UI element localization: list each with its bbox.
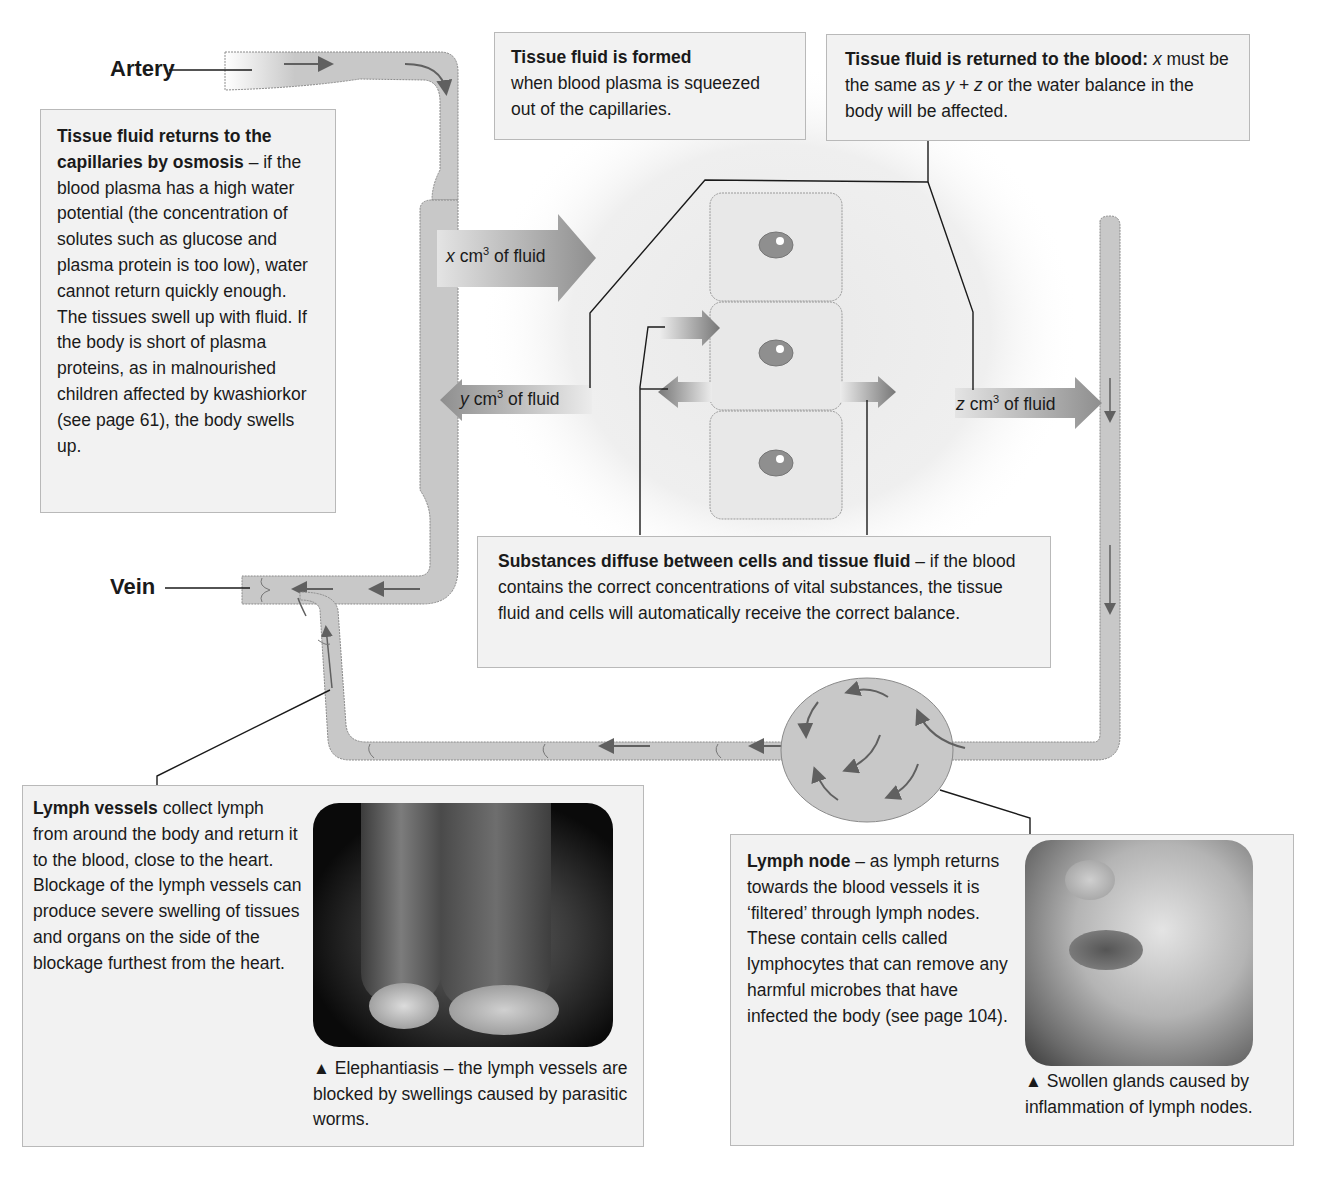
lymph-node-title: Lymph node <box>747 851 850 871</box>
lymph-node-box: Lymph node – as lymph returns towards th… <box>730 834 1294 1146</box>
diffuse-box: Substances diffuse between cells and tis… <box>477 536 1051 668</box>
rest: of fluid <box>503 389 559 409</box>
formed-box: Tissue fluid is formed when blood plasma… <box>494 32 806 140</box>
returned-title: Tissue fluid is returned to the blood: <box>845 49 1148 69</box>
unit: cm <box>460 246 483 266</box>
returned-box: Tissue fluid is returned to the blood: x… <box>826 34 1250 141</box>
y-plus-z: y + z <box>945 75 982 95</box>
z-fluid-label: z cm3 of fluid <box>956 393 1056 415</box>
swollen-glands-caption-text: Swollen glands caused by inflammation of… <box>1025 1071 1253 1117</box>
y-var: y <box>460 389 469 409</box>
elephantiasis-caption-text: Elephantiasis – the lymph vessels are bl… <box>313 1058 628 1129</box>
nucleus-icon <box>759 450 793 476</box>
unit: cm <box>970 394 993 414</box>
swollen-glands-photo <box>1025 840 1253 1066</box>
lymph-vessels-text: Lymph vessels collect lymph from around … <box>33 796 303 977</box>
diffuse-title: Substances diffuse between cells and tis… <box>498 551 910 571</box>
lymph-vessels-body: collect lymph from around the body and r… <box>33 798 301 973</box>
lymph-vessels-title: Lymph vessels <box>33 798 158 818</box>
z-var: z <box>956 394 965 414</box>
elephantiasis-caption: ▲ Elephantiasis – the lymph vessels are … <box>313 1056 643 1133</box>
leg-right <box>441 803 551 1008</box>
x-fluid-label: x cm3 of fluid <box>446 245 546 267</box>
osmosis-title: Tissue fluid returns to the capillaries … <box>57 126 272 172</box>
artery-label: Artery <box>110 56 175 82</box>
heel-right <box>449 985 559 1035</box>
lymph-node-text: Lymph node – as lymph returns towards th… <box>747 849 1017 1030</box>
triangle-icon: ▲ <box>1025 1072 1042 1091</box>
y-fluid-label: y cm3 of fluid <box>460 388 560 410</box>
swollen-glands-caption: ▲ Swollen glands caused by inflammation … <box>1025 1069 1293 1120</box>
tissue-cells <box>710 193 842 519</box>
triangle-icon: ▲ <box>313 1059 330 1078</box>
nucleus-icon <box>759 232 793 258</box>
leg-left <box>361 803 441 1003</box>
nose <box>1065 860 1115 900</box>
formed-body: when blood plasma is squeezed out of the… <box>511 73 760 119</box>
lymph-vessels-box: Lymph vessels collect lymph from around … <box>22 785 644 1147</box>
osmosis-body: – if the blood plasma has a high water p… <box>57 152 308 456</box>
heel-left <box>369 983 439 1029</box>
vein-label: Vein <box>110 574 155 600</box>
rest: of fluid <box>999 394 1055 414</box>
osmosis-box: Tissue fluid returns to the capillaries … <box>40 109 336 513</box>
lymph-node-body: – as lymph returns towards the blood ves… <box>747 851 1008 1026</box>
mouth <box>1069 930 1143 970</box>
unit: cm <box>474 389 497 409</box>
elephantiasis-photo <box>313 803 613 1047</box>
formed-title: Tissue fluid is formed <box>511 47 692 67</box>
lymph-node <box>781 678 965 822</box>
nucleus-icon <box>759 340 793 366</box>
x-var: x <box>446 246 455 266</box>
rest: of fluid <box>489 246 545 266</box>
x-var: x <box>1148 49 1162 69</box>
